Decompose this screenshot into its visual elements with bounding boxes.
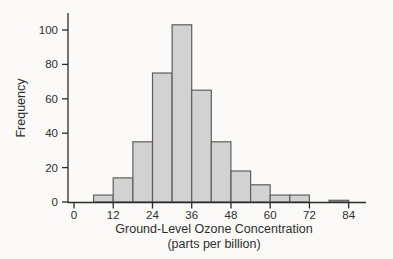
x-tick-label: 60 bbox=[264, 209, 277, 221]
histogram-bar bbox=[172, 25, 192, 202]
x-tick-label: 84 bbox=[342, 209, 355, 221]
x-tick-label: 72 bbox=[303, 209, 316, 221]
x-axis-title: Ground-Level Ozone Concentration bbox=[115, 222, 312, 236]
y-tick-label: 0 bbox=[52, 196, 58, 208]
y-tick-label: 60 bbox=[45, 93, 58, 105]
histogram-bar bbox=[113, 178, 133, 202]
x-tick-label: 12 bbox=[107, 209, 120, 221]
x-tick-label: 0 bbox=[71, 209, 77, 221]
x-tick-label: 36 bbox=[185, 209, 198, 221]
y-axis-title: Frequency bbox=[14, 78, 28, 138]
histogram-bar bbox=[270, 195, 290, 202]
x-tick-label: 24 bbox=[146, 209, 159, 221]
histogram-bar bbox=[94, 195, 114, 202]
ozone-histogram-chart: 020406080100 012243648607284 Frequency G… bbox=[0, 0, 393, 259]
x-tick-label: 48 bbox=[225, 209, 238, 221]
histogram-bar bbox=[251, 185, 271, 202]
y-tick-label: 80 bbox=[45, 58, 58, 70]
y-tick-label: 40 bbox=[45, 127, 58, 139]
y-axis-ticks: 020406080100 bbox=[39, 24, 68, 208]
y-tick-label: 100 bbox=[39, 24, 58, 36]
histogram-bar bbox=[133, 142, 153, 202]
y-tick-label: 20 bbox=[45, 162, 58, 174]
histogram-figure: 020406080100 012243648607284 Frequency G… bbox=[0, 0, 393, 259]
histogram-bar bbox=[192, 90, 212, 202]
histogram-bar bbox=[153, 73, 173, 202]
x-axis-ticks: 012243648607284 bbox=[71, 203, 356, 221]
histogram-bar bbox=[290, 195, 310, 202]
histogram-bar bbox=[211, 142, 231, 202]
x-axis-title-units: (parts per billion) bbox=[167, 237, 260, 251]
histogram-bar bbox=[329, 200, 349, 202]
histogram-bar bbox=[231, 171, 251, 202]
bars-group bbox=[94, 25, 349, 202]
